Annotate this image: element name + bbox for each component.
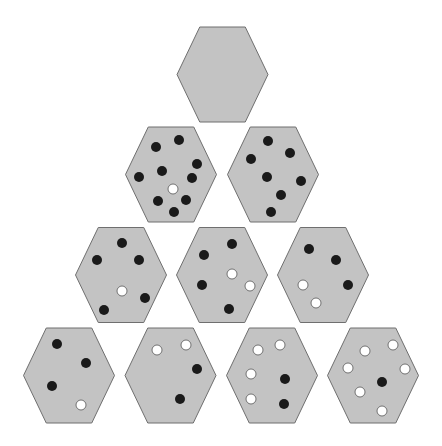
white-dot xyxy=(246,394,256,404)
black-dot xyxy=(192,364,202,374)
white-dot xyxy=(168,184,178,194)
white-dot xyxy=(360,346,370,356)
black-dot xyxy=(174,135,184,145)
white-dot xyxy=(181,340,191,350)
white-dot xyxy=(355,387,365,397)
white-dot xyxy=(76,400,86,410)
white-dot xyxy=(311,298,321,308)
white-dot xyxy=(227,269,237,279)
white-dot xyxy=(246,369,256,379)
black-dot xyxy=(52,339,62,349)
hexagon-shape xyxy=(328,328,419,423)
black-dot xyxy=(181,195,191,205)
white-dot xyxy=(298,280,308,290)
black-dot xyxy=(296,176,306,186)
black-dot xyxy=(262,172,272,182)
black-dot xyxy=(134,172,144,182)
black-dot xyxy=(157,166,167,176)
black-dot xyxy=(266,207,276,217)
black-dot xyxy=(140,293,150,303)
hexagon-tile-r3c3 xyxy=(278,228,369,323)
black-dot xyxy=(175,394,185,404)
black-dot xyxy=(304,244,314,254)
hexagon-shape xyxy=(24,328,115,423)
white-dot xyxy=(343,363,353,373)
hexagon-shape xyxy=(177,27,268,122)
hexagon-tile-r1c1 xyxy=(177,27,268,122)
black-dot xyxy=(99,305,109,315)
black-dot xyxy=(199,250,209,260)
hexagon-shape xyxy=(177,228,268,323)
hexagon-tile-r2c1 xyxy=(126,127,217,222)
hexagon-shape xyxy=(227,328,318,423)
black-dot xyxy=(285,148,295,158)
black-dot xyxy=(263,136,273,146)
black-dot xyxy=(192,159,202,169)
hexagon-tile-r4c1 xyxy=(24,328,115,423)
black-dot xyxy=(377,377,387,387)
white-dot xyxy=(152,345,162,355)
black-dot xyxy=(117,238,127,248)
white-dot xyxy=(388,340,398,350)
white-dot xyxy=(275,340,285,350)
black-dot xyxy=(134,255,144,265)
hexagon-shape xyxy=(278,228,369,323)
black-dot xyxy=(224,304,234,314)
black-dot xyxy=(47,381,57,391)
black-dot xyxy=(246,154,256,164)
hexagon-tile-r3c1 xyxy=(76,228,167,323)
black-dot xyxy=(280,374,290,384)
hexagon-tile-r4c2 xyxy=(125,328,216,423)
black-dot xyxy=(151,142,161,152)
black-dot xyxy=(81,358,91,368)
hexagon-tile-r4c4 xyxy=(328,328,419,423)
black-dot xyxy=(153,196,163,206)
black-dot xyxy=(197,280,207,290)
black-dot xyxy=(279,399,289,409)
white-dot xyxy=(400,364,410,374)
white-dot xyxy=(377,406,387,416)
black-dot xyxy=(227,239,237,249)
hexagon-tile-r4c3 xyxy=(227,328,318,423)
black-dot xyxy=(331,255,341,265)
black-dot xyxy=(187,173,197,183)
black-dot xyxy=(276,190,286,200)
black-dot xyxy=(169,207,179,217)
hexagon-tile-r3c2 xyxy=(177,228,268,323)
hexagon-tile-r2c2 xyxy=(228,127,319,222)
hexagon-pyramid-diagram xyxy=(0,0,442,446)
black-dot xyxy=(343,280,353,290)
white-dot xyxy=(245,281,255,291)
white-dot xyxy=(253,345,263,355)
black-dot xyxy=(92,255,102,265)
white-dot xyxy=(117,286,127,296)
hexagon-shape xyxy=(125,328,216,423)
